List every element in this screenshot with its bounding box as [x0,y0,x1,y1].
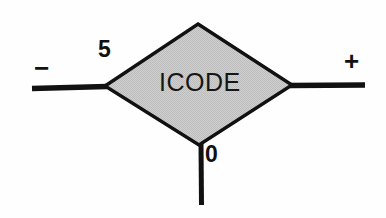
left-port-line [32,87,107,89]
diagram-canvas: 5 0 − + ICODE [0,0,386,218]
right-port-line [290,85,365,86]
bottom-port-gain-label: 0 [205,143,218,166]
bottom-port-line [201,143,202,205]
icode-block-label: ICODE [159,70,241,95]
diagram-graphics [0,0,386,218]
plus-sign-icon: + [344,48,359,74]
minus-sign-icon: − [34,55,49,81]
left-port-gain-label: 5 [98,38,111,61]
